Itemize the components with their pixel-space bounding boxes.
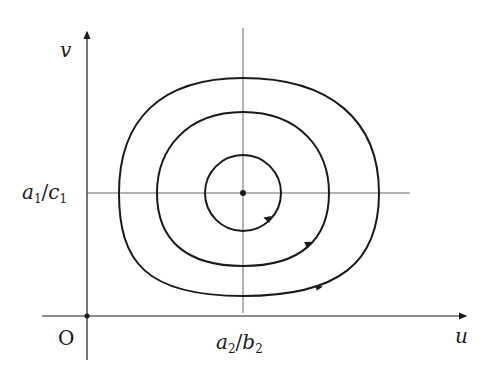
origin-dot bbox=[85, 314, 90, 319]
phase-portrait-canvas bbox=[0, 0, 494, 376]
equilibrium-point bbox=[240, 190, 246, 196]
origin-label: O bbox=[58, 328, 74, 348]
u-equilibrium-label: a2/b2 bbox=[216, 332, 263, 355]
u-axis-label: u bbox=[455, 326, 468, 346]
v-equilibrium-label: a1/c1 bbox=[22, 182, 67, 205]
v-axis-label: v bbox=[60, 40, 71, 60]
